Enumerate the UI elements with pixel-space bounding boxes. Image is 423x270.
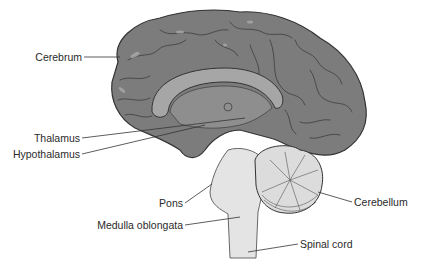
label-pons: Pons bbox=[120, 197, 183, 209]
label-cerebellum: Cerebellum bbox=[354, 196, 408, 208]
label-thalamus: Thalamus bbox=[4, 132, 80, 144]
label-spinal-cord: Spinal cord bbox=[300, 238, 353, 250]
label-hypothalamus: Hypothalamus bbox=[2, 148, 80, 160]
label-medulla-oblongata: Medulla oblongata bbox=[60, 219, 183, 231]
cerebellum-shape bbox=[255, 146, 323, 214]
label-cerebrum: Cerebrum bbox=[8, 51, 82, 63]
